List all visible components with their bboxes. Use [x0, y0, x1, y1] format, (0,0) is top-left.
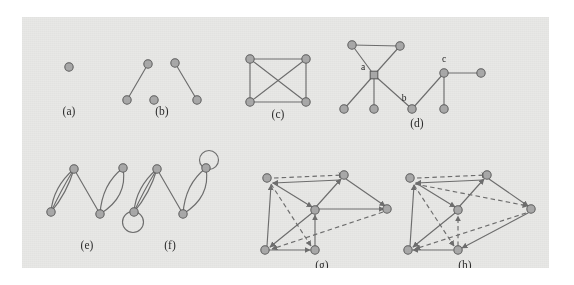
edge-directed-dashed [271, 184, 311, 246]
edge-directed-dashed [272, 212, 383, 249]
node [150, 96, 158, 104]
node [193, 96, 201, 104]
node [454, 206, 462, 214]
node-a-square [370, 71, 378, 79]
edge [344, 75, 374, 109]
node [202, 164, 210, 172]
edge [374, 75, 412, 109]
node [302, 98, 310, 106]
node [119, 164, 127, 172]
node [440, 105, 448, 113]
edge [74, 169, 100, 214]
node [263, 174, 271, 182]
edge-directed-dashed [417, 175, 487, 178]
edge-directed-dashed [415, 184, 528, 206]
edge-directed [346, 179, 385, 206]
edge-directed [267, 185, 271, 246]
edge-parallel [100, 168, 124, 214]
edge-parallel [183, 168, 206, 214]
node [348, 41, 356, 49]
edge-parallel [134, 169, 157, 212]
node [179, 210, 187, 218]
panel-a: (a) [63, 63, 76, 118]
figure-panel: (a) (b) [22, 17, 549, 268]
node [47, 208, 55, 216]
panel-f: (f) [123, 151, 219, 253]
edge [412, 73, 444, 109]
caption-g: (g) [315, 259, 329, 268]
caption-h: (h) [458, 259, 472, 268]
node [340, 171, 348, 179]
node [311, 206, 319, 214]
caption-e: (e) [81, 239, 94, 252]
panel-h: (h) [404, 171, 535, 268]
edge-parallel [51, 169, 74, 212]
node [404, 246, 412, 254]
figure-root: (a) (b) [0, 0, 574, 285]
panel-b: (b) [123, 59, 201, 118]
edge [374, 46, 400, 75]
node-c [440, 69, 448, 77]
node [153, 165, 161, 173]
node [246, 98, 254, 106]
panel-d: a b c (d) [340, 41, 485, 130]
node [396, 42, 404, 50]
panel-g: (g) [261, 171, 391, 268]
node [483, 171, 491, 179]
node [370, 105, 378, 113]
graph-figure-svg: (a) (b) [22, 17, 549, 268]
node [340, 105, 348, 113]
edge-directed [270, 213, 312, 247]
node [123, 96, 131, 104]
caption-b: (b) [155, 105, 169, 118]
edge [157, 169, 183, 214]
node-b [408, 105, 416, 113]
edge [175, 63, 197, 100]
node [302, 55, 310, 63]
node [527, 205, 535, 213]
node [130, 208, 138, 216]
node [144, 60, 152, 68]
node [70, 165, 78, 173]
node [96, 210, 104, 218]
edge-directed [273, 180, 340, 183]
caption-d: (d) [410, 117, 424, 130]
edge-directed [315, 179, 341, 208]
edge-directed [416, 180, 483, 183]
node [246, 55, 254, 63]
edge-directed [416, 183, 455, 207]
node [383, 205, 391, 213]
node [477, 69, 485, 77]
caption-a: (a) [63, 105, 76, 118]
edge-directed [410, 185, 414, 246]
edge-parallel [100, 168, 123, 214]
edge-parallel [183, 168, 207, 214]
vertex-label-c: c [442, 54, 446, 64]
panel-c: (c) [246, 55, 310, 121]
edge-directed-dashed [274, 175, 344, 178]
edge [127, 64, 148, 100]
edge-directed [413, 213, 455, 247]
panel-e: (e) [47, 164, 127, 252]
edge-directed [273, 183, 312, 207]
node [261, 246, 269, 254]
caption-f: (f) [164, 239, 176, 252]
node [171, 59, 179, 67]
caption-c: (c) [272, 108, 285, 121]
node [311, 246, 319, 254]
vertex-label-b: b [402, 93, 407, 103]
node [406, 174, 414, 182]
node [65, 63, 73, 71]
node [454, 246, 462, 254]
edge [352, 45, 400, 46]
